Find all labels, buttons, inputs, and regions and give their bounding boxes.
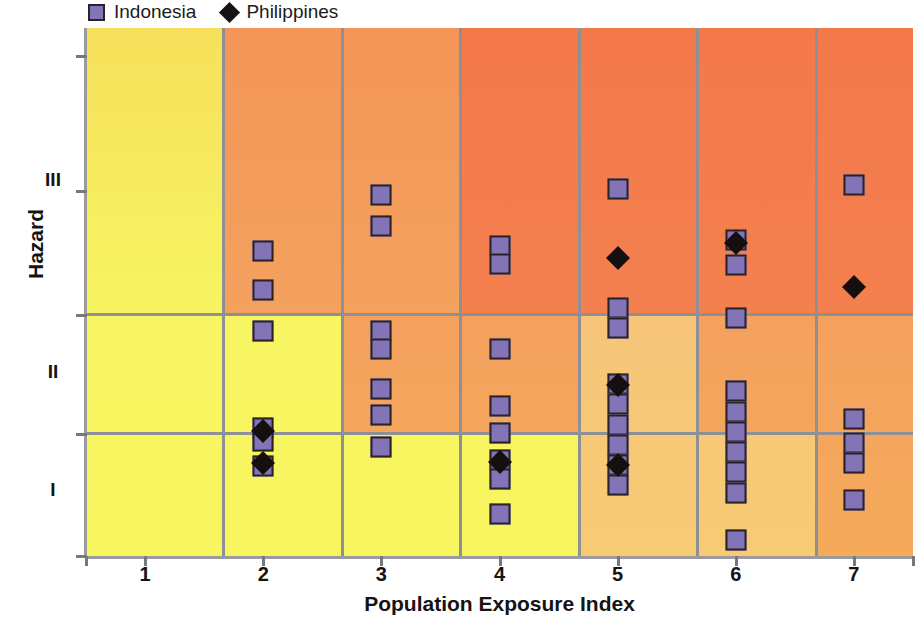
matrix-cell	[86, 28, 223, 314]
data-point-indonesia	[371, 185, 392, 206]
legend-label-indonesia: Indonesia	[114, 1, 196, 23]
data-point-indonesia	[489, 423, 510, 444]
data-point-indonesia	[253, 280, 274, 301]
data-point-indonesia	[843, 489, 864, 510]
data-point-indonesia	[253, 240, 274, 261]
data-point-indonesia	[725, 442, 746, 463]
matrix-cell	[579, 433, 697, 558]
matrix-cell	[86, 314, 223, 433]
matrix-cell	[579, 28, 697, 314]
x-tick-label: 4	[470, 563, 530, 586]
data-point-indonesia	[725, 462, 746, 483]
matrix-cell	[460, 433, 579, 558]
matrix-cell	[460, 28, 579, 314]
data-point-indonesia	[725, 307, 746, 328]
matrix-cell	[816, 28, 913, 314]
matrix-cell	[697, 314, 816, 433]
data-point-indonesia	[489, 338, 510, 359]
legend-item-indonesia: Indonesia	[88, 1, 196, 23]
data-point-indonesia	[489, 503, 510, 524]
square-marker-icon	[88, 4, 105, 21]
gridline-horizontal	[86, 313, 913, 316]
y-axis-tick	[76, 314, 87, 317]
matrix-cell	[579, 314, 697, 433]
gridline-vertical	[341, 28, 344, 558]
data-point-indonesia	[725, 482, 746, 503]
data-point-indonesia	[725, 530, 746, 551]
data-point-indonesia	[607, 475, 628, 496]
gridline-vertical	[222, 28, 225, 558]
data-point-indonesia	[371, 378, 392, 399]
x-tick-label: 5	[588, 563, 648, 586]
gridline-vertical	[459, 28, 462, 558]
x-tick-label: 1	[115, 563, 175, 586]
y-axis-tick	[76, 190, 87, 193]
data-point-indonesia	[371, 215, 392, 236]
x-tick-label: 7	[824, 563, 884, 586]
x-tick-label: 2	[233, 563, 293, 586]
data-point-indonesia	[725, 401, 746, 422]
data-point-indonesia	[607, 318, 628, 339]
data-point-indonesia	[607, 179, 628, 200]
gridline-vertical	[578, 28, 581, 558]
matrix-cell	[86, 433, 223, 558]
y-tick-label: II	[30, 361, 76, 383]
data-point-indonesia	[843, 452, 864, 473]
matrix-cell	[816, 433, 913, 558]
matrix-cell	[342, 28, 460, 314]
y-axis-title: Hazard	[24, 184, 48, 304]
data-point-indonesia	[843, 408, 864, 429]
matrix-cell	[697, 433, 816, 558]
data-point-indonesia	[371, 405, 392, 426]
gridline-vertical	[815, 28, 818, 558]
data-point-indonesia	[725, 255, 746, 276]
matrix-cell	[342, 433, 460, 558]
chart-legend: Indonesia Philippines	[88, 0, 338, 24]
y-axis-line	[84, 28, 87, 558]
data-point-indonesia	[253, 320, 274, 341]
y-axis-tick	[76, 55, 87, 58]
data-point-indonesia	[843, 175, 864, 196]
x-axis-tick	[85, 556, 88, 566]
legend-item-philippines: Philippines	[222, 1, 338, 23]
data-point-indonesia	[371, 437, 392, 458]
x-tick-label: 3	[351, 563, 411, 586]
data-point-indonesia	[607, 298, 628, 319]
data-point-indonesia	[843, 432, 864, 453]
matrix-cell	[460, 314, 579, 433]
matrix-cell	[223, 314, 342, 433]
plot-area	[86, 28, 913, 558]
data-point-indonesia	[489, 395, 510, 416]
y-tick-label: I	[30, 479, 76, 501]
x-axis-title: Population Exposure Index	[86, 592, 913, 616]
matrix-cell	[223, 433, 342, 558]
data-point-indonesia	[371, 338, 392, 359]
x-tick-label: 6	[706, 563, 766, 586]
data-point-indonesia	[607, 414, 628, 435]
y-tick-label: III	[30, 169, 76, 191]
data-point-indonesia	[725, 421, 746, 442]
data-point-indonesia	[489, 254, 510, 275]
matrix-cell	[816, 314, 913, 433]
legend-label-philippines: Philippines	[246, 1, 338, 23]
gridline-vertical	[696, 28, 699, 558]
data-point-indonesia	[725, 381, 746, 402]
matrix-cell	[223, 28, 342, 314]
diamond-marker-icon	[219, 1, 240, 22]
matrix-cell	[342, 314, 460, 433]
y-axis-tick	[76, 433, 87, 436]
matrix-cell	[697, 28, 816, 314]
